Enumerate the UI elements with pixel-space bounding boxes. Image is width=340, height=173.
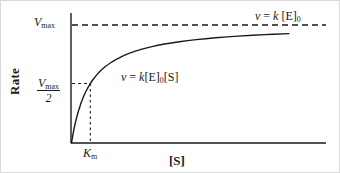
asymptote-eq-k: k xyxy=(273,9,278,23)
km-symbol: K xyxy=(83,146,91,160)
saturation-curve xyxy=(72,34,290,143)
curve-equation-annotation: v = k[E]0[S] xyxy=(121,71,178,83)
fraction-denominator: 2 xyxy=(37,91,60,104)
x-tick-label-km: Km xyxy=(83,147,97,159)
curve-eq-substrate: [S] xyxy=(164,70,179,84)
curve-eq-v: v xyxy=(121,70,126,84)
curve-eq-equals: = xyxy=(129,70,136,84)
curve-eq-enzyme: [E] xyxy=(144,70,159,84)
curve-eq-enzyme-subscript: 0 xyxy=(160,76,164,85)
asymptote-eq-enzyme: [E] xyxy=(281,9,296,23)
x-axis-title: [S] xyxy=(169,154,185,167)
y-axis-title: Rate xyxy=(8,60,21,104)
y-tick-label-vmax: Vmax xyxy=(34,16,55,28)
asymptote-eq-enzyme-subscript: 0 xyxy=(297,15,301,24)
michaelis-menten-figure: Rate [S] Vmax Vmax 2 Km v = k[E]0[S] v =… xyxy=(0,0,340,173)
km-subscript: m xyxy=(91,152,97,161)
y-tick-label-vmax-half: Vmax 2 xyxy=(37,77,60,104)
vmax-half-subscript: max xyxy=(45,82,59,91)
asymptote-eq-v: v xyxy=(255,9,260,23)
asymptote-equation-annotation: v = k [E]0 xyxy=(255,10,301,22)
asymptote-eq-equals: = xyxy=(263,9,270,23)
fraction-numerator: Vmax xyxy=(37,77,60,91)
vmax-subscript: max xyxy=(41,21,55,30)
